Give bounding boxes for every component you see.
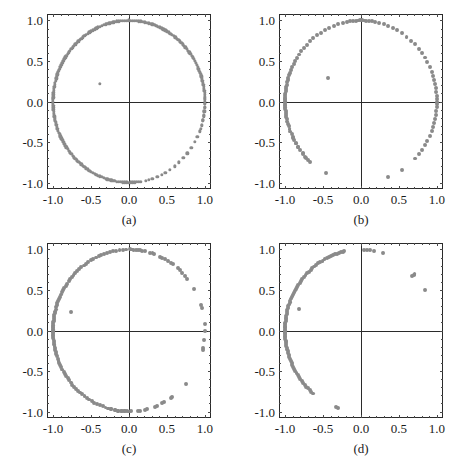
y-minor-tick-d: [441, 395, 443, 396]
y-minor-tick-b: [279, 166, 281, 167]
x-minor-tick-a: [197, 187, 198, 189]
x-minor-tick-a: [68, 187, 69, 189]
x-minor-tick-b: [429, 14, 430, 16]
panel-caption-a: (a): [47, 213, 211, 227]
data-point: [334, 405, 338, 409]
y-tick-b-2: [279, 102, 282, 103]
y-minor-tick-c: [47, 339, 49, 340]
y-minor-tick-c: [209, 355, 211, 356]
y-tick-a-1: [47, 142, 50, 143]
y-tick-c-1: [208, 371, 211, 372]
y-tick-b-0: [440, 183, 443, 184]
y-minor-tick-c: [209, 274, 211, 275]
x-minor-tick-a: [159, 187, 160, 189]
y-minor-tick-b: [279, 93, 281, 94]
y-minor-tick-c: [47, 403, 49, 404]
y-minor-tick-d: [441, 322, 443, 323]
data-point: [431, 125, 435, 129]
x-minor-tick-b: [300, 187, 301, 189]
x-minor-tick-d: [429, 416, 430, 418]
x-minor-tick-b: [331, 14, 332, 16]
data-point: [152, 252, 156, 256]
y-minor-tick-d: [441, 403, 443, 404]
y-minor-tick-d: [279, 379, 281, 380]
x-minor-tick-d: [353, 416, 354, 418]
data-point: [203, 329, 207, 333]
x-tick-c-4: [205, 243, 206, 246]
y-minor-tick-a: [209, 134, 211, 135]
x-tick-label-d-3: 0.5: [391, 422, 407, 435]
y-minor-tick-c: [209, 363, 211, 364]
y-tick-a-1: [208, 142, 211, 143]
y-minor-tick-b: [441, 118, 443, 119]
data-point: [430, 70, 434, 74]
data-point: [107, 407, 111, 411]
y-tick-d-4: [440, 249, 443, 250]
x-tick-label-a-3: 0.5: [159, 193, 175, 206]
x-minor-tick-b: [308, 187, 309, 189]
y-minor-tick-c: [209, 403, 211, 404]
x-minor-tick-d: [308, 243, 309, 245]
x-minor-tick-c: [197, 416, 198, 418]
x-minor-tick-b: [376, 187, 377, 189]
x-tick-b-0: [285, 14, 286, 17]
y-tick-c-4: [47, 249, 50, 250]
data-point: [304, 156, 308, 160]
data-point: [319, 31, 323, 35]
x-minor-tick-d: [315, 416, 316, 418]
data-point: [192, 287, 196, 291]
x-minor-tick-c: [137, 416, 138, 418]
data-point: [185, 277, 189, 281]
x-tick-d-1: [323, 415, 324, 418]
panel-b: -1.0-0.50.00.51.0-1.0-0.50.00.51.0(b): [237, 4, 453, 224]
x-tick-d-0: [285, 243, 286, 246]
y-minor-tick-b: [441, 93, 443, 94]
data-point: [143, 249, 147, 253]
x-tick-label-d-2: 0.0: [353, 422, 369, 435]
x-minor-tick-d: [414, 243, 415, 245]
y-minor-tick-c: [47, 314, 49, 315]
y-minor-tick-a: [209, 118, 211, 119]
x-minor-tick-c: [159, 416, 160, 418]
y-minor-tick-b: [441, 134, 443, 135]
y-tick-label-d-4: 1.0: [259, 243, 275, 256]
x-minor-tick-c: [152, 243, 153, 245]
x-minor-tick-a: [175, 14, 176, 16]
x-tick-label-c-2: 0.0: [121, 422, 137, 435]
y-minor-tick-c: [209, 266, 211, 267]
y-minor-tick-c: [209, 322, 211, 323]
x-minor-tick-d: [384, 416, 385, 418]
x-minor-tick-c: [99, 416, 100, 418]
y-minor-tick-c: [47, 395, 49, 396]
x-minor-tick-b: [331, 187, 332, 189]
y-minor-tick-b: [279, 118, 281, 119]
x-tick-c-1: [91, 243, 92, 246]
data-point: [400, 31, 404, 35]
x-tick-b-1: [323, 14, 324, 17]
x-tick-label-b-0: -1.0: [275, 193, 296, 206]
y-minor-tick-a: [47, 85, 49, 86]
y-minor-tick-b: [279, 29, 281, 30]
y-minor-tick-b: [441, 37, 443, 38]
data-point: [297, 307, 301, 311]
x-tick-a-3: [167, 14, 168, 17]
x-tick-label-b-2: 0.0: [353, 193, 369, 206]
x-minor-tick-c: [182, 416, 183, 418]
x-tick-b-3: [399, 14, 400, 17]
y-minor-tick-c: [209, 258, 211, 259]
x-minor-tick-c: [190, 243, 191, 245]
y-minor-tick-b: [279, 85, 281, 86]
x-tick-b-4: [437, 14, 438, 17]
y-tick-c-3: [47, 290, 50, 291]
y-minor-tick-c: [209, 347, 211, 348]
figure-root: -1.0-0.50.00.51.0-1.0-0.50.00.51.0(a)-1.…: [0, 0, 464, 460]
data-point: [413, 272, 417, 276]
x-tick-a-1: [91, 14, 92, 17]
y-tick-d-1: [440, 371, 443, 372]
x-minor-tick-a: [99, 187, 100, 189]
data-point: [120, 409, 124, 413]
x-minor-tick-c: [175, 243, 176, 245]
x-tick-c-2: [129, 243, 130, 246]
y-tick-b-2: [440, 102, 443, 103]
x-minor-tick-c: [137, 243, 138, 245]
